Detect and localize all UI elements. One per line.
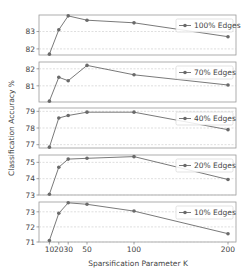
data-point-marker (132, 21, 136, 25)
y-tick-label: 72 (25, 223, 35, 232)
data-point-marker (226, 232, 230, 236)
y-tick-label: 77 (25, 140, 35, 149)
legend-label: 40% Edges (194, 114, 236, 123)
y-tick-label: 81 (25, 82, 35, 91)
data-point-marker (66, 79, 70, 83)
legend-label: 10% Edges (194, 208, 236, 217)
data-point-marker (85, 156, 89, 160)
x-tick-label: 100 (127, 245, 142, 254)
panel-2: 818270% Edges (25, 62, 236, 103)
legend-marker-icon (183, 164, 187, 168)
data-point-marker (66, 14, 70, 18)
x-tick-label: 50 (82, 245, 92, 254)
data-point-marker (226, 35, 230, 39)
panel-3: 77787940% Edges (25, 107, 236, 149)
data-point-marker (57, 116, 61, 120)
legend-label: 20% Edges (194, 161, 236, 170)
y-tick-label: 79 (25, 107, 35, 116)
legend-marker-icon (183, 211, 187, 215)
data-point-marker (226, 128, 230, 132)
data-point-marker (226, 178, 230, 182)
data-point-marker (132, 155, 136, 159)
data-point-marker (57, 76, 61, 80)
legend-marker-icon (183, 71, 187, 75)
y-tick-label: 75 (25, 158, 35, 167)
panel-5: 71727310% Edges (25, 201, 236, 247)
legend-marker-icon (183, 24, 187, 28)
data-point-marker (66, 114, 70, 118)
y-tick-label: 82 (25, 45, 35, 54)
data-point-marker (85, 110, 89, 114)
data-point-marker (48, 239, 52, 243)
legend-label: 70% Edges (194, 68, 236, 77)
x-tick-label: 10 (45, 245, 55, 254)
data-point-marker (48, 52, 52, 56)
panel-1: 8283100% Edges (25, 14, 240, 56)
data-point-marker (132, 73, 136, 77)
small-multiples-line-chart: 8283100% Edges818270% Edges77787940% Edg… (0, 0, 249, 278)
panel-4: 73747520% Edges (25, 155, 236, 200)
x-tick-label: 20 (54, 245, 64, 254)
legend: 10% Edges (176, 206, 236, 219)
data-point-marker (66, 157, 70, 161)
data-point-marker (85, 18, 89, 22)
x-axis-label: Sparsification Parameter K (88, 259, 189, 268)
y-axis-label: Classification Accuracy % (7, 80, 16, 176)
legend-label: 100% Edges (194, 21, 241, 30)
x-tick-label: 200 (221, 245, 236, 254)
x-tick-label: 30 (63, 245, 73, 254)
y-tick-label: 82 (25, 65, 35, 74)
legend: 100% Edges (176, 19, 241, 32)
legend: 70% Edges (176, 66, 236, 79)
y-tick-label: 83 (25, 27, 35, 36)
data-point-marker (85, 202, 89, 206)
legend: 20% Edges (176, 159, 236, 172)
legend-marker-icon (183, 117, 187, 121)
data-point-marker (48, 192, 52, 196)
y-tick-label: 74 (25, 174, 35, 183)
data-point-marker (85, 64, 89, 68)
data-point-marker (66, 201, 70, 205)
data-point-marker (132, 209, 136, 213)
data-point-marker (48, 145, 52, 149)
data-point-marker (57, 212, 61, 216)
y-tick-label: 73 (25, 208, 35, 217)
y-tick-label: 73 (25, 191, 35, 200)
data-point-marker (226, 83, 230, 87)
chart-panels: 8283100% Edges818270% Edges77787940% Edg… (25, 14, 240, 247)
x-axis: 10203050100200 (45, 242, 236, 254)
data-point-marker (48, 99, 52, 103)
data-point-marker (132, 110, 136, 114)
legend: 40% Edges (176, 112, 236, 125)
data-point-marker (57, 165, 61, 169)
y-tick-label: 78 (25, 124, 35, 133)
data-point-marker (57, 28, 61, 32)
y-tick-label: 71 (25, 238, 35, 247)
